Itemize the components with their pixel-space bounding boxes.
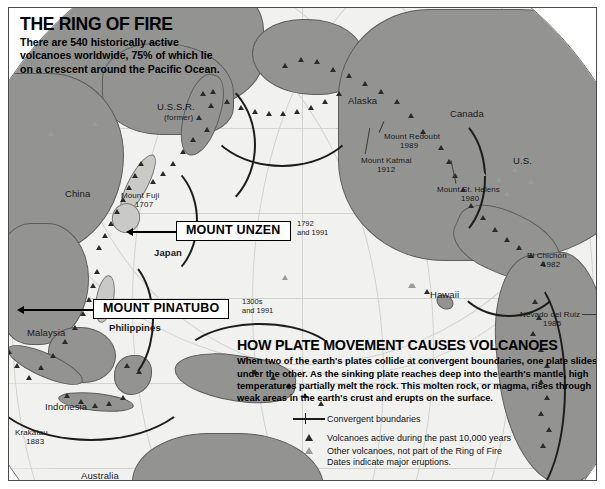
- volcano-marker: [330, 67, 336, 72]
- explainer-panel: HOW PLATE MOVEMENT CAUSES VOLCANOES When…: [237, 338, 597, 404]
- volcano-marker: [80, 311, 86, 316]
- legend-row-active: Volcanoes active during the past 10,000 …: [291, 431, 597, 444]
- globe: [9, 8, 596, 480]
- volcano-marker: [298, 57, 304, 62]
- map-label-philippines: Philippines: [109, 322, 161, 333]
- volcano-marker: [96, 245, 102, 250]
- map-label-malaysia: Malaysia: [27, 327, 65, 338]
- convergent-boundary-icon: [291, 412, 327, 425]
- volcano-marker: [530, 331, 536, 336]
- volcano-year-krakatau: 1883: [26, 437, 44, 446]
- volcano-label-mount-fuji: Mount Fuji: [121, 191, 159, 200]
- volcano-year-mount-st-helens: 1980: [461, 194, 479, 203]
- volcano-marker: [336, 91, 342, 96]
- legend-label-other: Other volcanoes, not part of the Ring of…: [327, 446, 502, 456]
- legend-note: Dates indicate major eruptions.: [327, 457, 597, 467]
- volcano-marker: [282, 63, 288, 68]
- volcano-marker: [322, 99, 328, 104]
- volcano-marker: [252, 109, 258, 114]
- volcano-marker: [190, 137, 196, 142]
- volcano-marker: [362, 81, 368, 86]
- explainer-title: HOW PLATE MOVEMENT CAUSES VOLCANOES: [237, 338, 597, 352]
- volcano-label-nevado-del-ruiz: Nevado del Ruiz: [520, 310, 580, 319]
- legend-label-active: Volcanoes active during the past 10,000 …: [327, 433, 511, 443]
- volcano-marker: [106, 401, 112, 406]
- volcano-marker: [108, 221, 114, 226]
- volcano-marker-other: [480, 171, 486, 176]
- infographic-page: U.S.S.R. (former) Alaska Canada U.S. Chi…: [0, 0, 605, 489]
- callout-mount-pinatubo[interactable]: MOUNT PINATUBO: [93, 299, 229, 319]
- map-label-ussr: U.S.S.R.: [157, 101, 195, 112]
- volcano-year-mount-fuji: 1707: [135, 200, 153, 209]
- callout-date-mount-unzen: 1792 and 1991: [297, 219, 328, 238]
- volcano-year-el-chichon: 1982: [542, 260, 560, 269]
- map-label-ussr-former: (former): [164, 113, 193, 122]
- volcano-marker: [150, 179, 156, 184]
- page-title: THE RING OF FIRE: [20, 16, 265, 34]
- volcano-marker: [138, 161, 144, 166]
- volcano-label-mount-redoubt: Mount Redoubt: [384, 132, 440, 141]
- volcano-marker: [180, 149, 186, 154]
- map-label-alaska: Alaska: [348, 95, 377, 106]
- volcano-active-icon: [291, 431, 327, 444]
- volcano-marker: [64, 393, 70, 398]
- volcano-marker: [294, 109, 300, 114]
- volcano-marker-other: [512, 167, 518, 172]
- map-label-us: U.S.: [513, 155, 532, 166]
- volcano-marker: [120, 395, 126, 400]
- callout-mount-unzen[interactable]: MOUNT UNZEN: [176, 221, 291, 241]
- volcano-marker: [394, 99, 400, 104]
- map-label-australia: Australia: [81, 470, 119, 481]
- volcano-marker: [170, 161, 176, 166]
- volcano-marker: [132, 173, 138, 178]
- volcano-marker: [50, 353, 56, 358]
- map-frame: U.S.S.R. (former) Alaska Canada U.S. Chi…: [8, 7, 597, 481]
- volcano-marker: [532, 299, 538, 304]
- volcano-marker: [516, 245, 522, 250]
- volcano-marker: [92, 403, 98, 408]
- volcano-marker: [200, 91, 206, 96]
- leader-line: [582, 314, 597, 315]
- volcano-marker: [9, 349, 12, 354]
- explainer-body: When two of the earth's plates collide a…: [237, 355, 597, 404]
- volcano-marker: [126, 185, 132, 190]
- volcano-marker: [346, 73, 352, 78]
- volcano-marker: [62, 339, 68, 344]
- page-subtitle: There are 540 historically active volcan…: [20, 36, 220, 78]
- callout-date-mount-pinatubo: 1300s and 1991: [242, 297, 273, 316]
- map-label-canada: Canada: [450, 108, 484, 119]
- volcano-marker-other: [48, 131, 54, 136]
- volcano-marker: [124, 363, 130, 368]
- volcano-marker: [210, 89, 216, 94]
- volcano-marker: [160, 171, 166, 176]
- volcano-year-nevado-del-ruiz: 1985: [543, 319, 561, 328]
- volcano-other-icon: [291, 444, 327, 457]
- volcano-marker: [266, 111, 272, 116]
- volcano-marker: [38, 365, 44, 370]
- volcano-marker-other: [92, 121, 98, 126]
- volcano-marker: [14, 363, 20, 368]
- volcano-marker: [136, 369, 142, 374]
- volcano-marker: [114, 209, 120, 214]
- volcano-marker: [72, 325, 78, 330]
- volcano-year-mount-redoubt: 1989: [400, 141, 418, 150]
- volcano-label-mount-katmai: Mount Katmai: [361, 156, 412, 165]
- globe-container: [9, 8, 596, 480]
- map-label-china: China: [65, 188, 90, 199]
- volcano-marker-other: [496, 177, 502, 182]
- volcano-marker: [86, 297, 92, 302]
- legend-row-other: Other volcanoes, not part of the Ring of…: [291, 444, 597, 457]
- map-label-hawaii: Hawaii: [430, 289, 459, 300]
- volcano-marker: [102, 233, 108, 238]
- volcano-label-mount-st-helens: Mount St. Helens: [437, 185, 500, 194]
- volcano-marker-hawaii: [408, 283, 414, 288]
- volcano-marker: [26, 375, 32, 380]
- callout-arrow-pinatubo: [24, 309, 95, 311]
- volcano-marker: [204, 127, 210, 132]
- map-label-indonesia: Indonesia: [45, 401, 87, 412]
- volcano-marker-other: [528, 179, 534, 184]
- volcano-marker: [308, 105, 314, 110]
- volcano-marker: [480, 215, 486, 220]
- volcano-marker: [314, 59, 320, 64]
- callout-arrow-unzen: [133, 231, 178, 233]
